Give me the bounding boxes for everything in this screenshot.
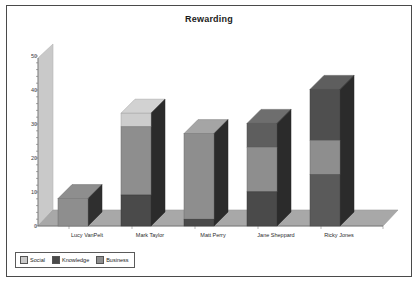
legend-item-business[interactable]: Business: [96, 256, 128, 264]
bar-side-face: [277, 109, 291, 226]
legend-label-knowledge: Knowledge: [62, 257, 89, 263]
y-tick-20: 20: [23, 155, 37, 161]
bar-segment-knowledge: [184, 219, 214, 226]
axis-wall: [38, 44, 53, 226]
legend-swatch-knowledge-icon: [52, 256, 60, 264]
y-tick-30: 30: [23, 121, 37, 127]
bar-segment-social: [121, 113, 151, 127]
y-tick-50: 50: [23, 53, 37, 59]
chart-legend: Social Knowledge Business: [15, 252, 135, 268]
bar-side-face: [151, 99, 165, 226]
bar-segment-business: [310, 141, 340, 175]
bar-segment-knowledge: [121, 195, 151, 226]
bar-segment-knowledge: [247, 192, 277, 226]
y-axis-labels: 0 10 20 30 40 50: [21, 6, 37, 278]
y-tick-10: 10: [23, 189, 37, 195]
y-tick-40: 40: [23, 87, 37, 93]
chart-frame: Rewarding: [6, 5, 412, 277]
bar-segment-business: [247, 147, 277, 192]
bar-side-face: [340, 75, 354, 226]
x-axis-ticks: [69, 226, 383, 229]
bar-segment-social: [247, 123, 277, 147]
bar-segment-business: [184, 134, 214, 220]
legend-label-business: Business: [106, 257, 128, 263]
bar-matt-perry[interactable]: [184, 120, 228, 226]
x-label-jane-sheppard: Jane Sheppard: [257, 232, 294, 238]
plot-area: 0 10 20 30 40 50 Lucy VanPelt Mark Taylo…: [7, 6, 413, 278]
legend-item-social[interactable]: Social: [20, 256, 45, 264]
bar-jane-sheppard[interactable]: [247, 109, 291, 226]
bar-segment-knowledge: [310, 175, 340, 226]
x-label-lucy-vanpelt: Lucy VanPelt: [71, 232, 103, 238]
bar-ricky-jones[interactable]: [310, 75, 354, 226]
bar-side-face: [214, 120, 228, 226]
bar-segment-business: [121, 127, 151, 195]
x-label-mark-taylor: Mark Taylor: [136, 232, 164, 238]
x-label-matt-perry: Matt Perry: [200, 232, 225, 238]
legend-label-social: Social: [30, 257, 45, 263]
y-tick-0: 0: [23, 223, 37, 229]
legend-swatch-social-icon: [20, 256, 28, 264]
bar-segment-knowledge: [58, 199, 88, 226]
legend-swatch-business-icon: [96, 256, 104, 264]
legend-item-knowledge[interactable]: Knowledge: [52, 256, 89, 264]
bar-mark-taylor[interactable]: [121, 99, 165, 226]
bar-segment-social: [310, 89, 340, 140]
x-label-ricky-jones: Ricky Jones: [324, 232, 354, 238]
